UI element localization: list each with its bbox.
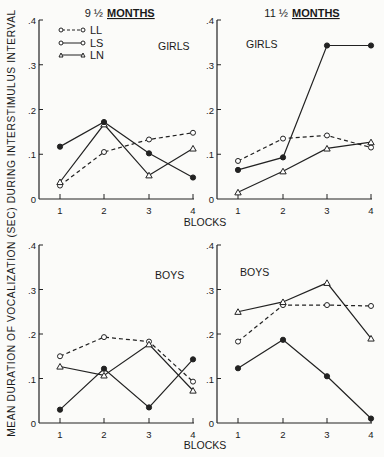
y-axis-label: MEAN DURATION OF VOCALIZATION (SEC) DURI… [6, 9, 17, 437]
y-tick-label: .3 [206, 285, 214, 296]
x-tick-label: 3 [324, 429, 329, 440]
data-point [102, 150, 107, 155]
data-point [57, 363, 63, 369]
series-ln [235, 280, 374, 341]
y-tick-label: .4 [206, 240, 214, 251]
legend: LL LS LN [59, 24, 104, 61]
data-point [146, 151, 151, 156]
chart-figure: MEAN DURATION OF VOCALIZATION (SEC) DURI… [0, 0, 384, 457]
panel-label: BOYS [240, 266, 269, 278]
data-point [280, 299, 286, 305]
data-point [102, 335, 107, 340]
series-ln [57, 121, 196, 184]
series-ln [235, 139, 374, 195]
y-tick-label: .2 [28, 329, 36, 340]
data-point [147, 137, 152, 142]
panel-11mo-girls: 0.1.2.3.41234GIRLS [206, 15, 374, 216]
panel-label: GIRLS [246, 38, 278, 50]
legend-item-ll: LL [59, 24, 102, 36]
y-tick-label: .1 [206, 149, 214, 160]
y-tick-label: .1 [206, 374, 214, 385]
x-tick-label: 4 [190, 205, 195, 216]
y-tick-label: .2 [206, 329, 214, 340]
svg-text:11 ½: 11 ½ [264, 7, 288, 19]
data-point [280, 155, 285, 160]
svg-text:MONTHS: MONTHS [292, 7, 340, 19]
data-point [236, 158, 241, 163]
data-point [191, 379, 196, 384]
panel-9mo-boys: 0.1.2.3.41234BOYS [28, 240, 196, 440]
svg-text:MONTHS: MONTHS [107, 7, 155, 19]
panel-9mo-girls: 0.1.2.3.41234GIRLS [28, 15, 196, 216]
series-ls [235, 337, 373, 421]
data-point [280, 337, 285, 342]
y-tick-label: 0 [209, 194, 214, 205]
y-tick-label: .3 [28, 285, 36, 296]
x-axis-label-top: BLOCKS [184, 216, 227, 228]
data-point [57, 407, 62, 412]
x-tick-label: 1 [235, 429, 240, 440]
series-ls [235, 43, 373, 173]
x-tick-label: 3 [146, 205, 151, 216]
y-tick-label: .2 [206, 105, 214, 116]
data-point [146, 405, 151, 410]
data-point [324, 374, 329, 379]
x-tick-label: 1 [57, 205, 62, 216]
y-tick-label: 0 [209, 418, 214, 429]
data-point [324, 280, 330, 286]
y-tick-label: .3 [28, 60, 36, 71]
x-tick-label: 4 [368, 205, 373, 216]
x-tick-label: 4 [368, 429, 373, 440]
x-tick-label: 3 [324, 205, 329, 216]
y-tick-label: .4 [206, 15, 214, 26]
legend-item-ls: LS [59, 37, 103, 49]
title-9-months: 9 ½ MONTHS [85, 7, 155, 19]
data-point [369, 145, 374, 150]
y-tick-label: 0 [31, 418, 36, 429]
data-point [235, 167, 240, 172]
x-tick-label: 2 [280, 429, 285, 440]
data-point [57, 144, 62, 149]
data-point [369, 303, 374, 308]
panel-label: GIRLS [158, 40, 190, 52]
title-11-months: 11 ½ MONTHS [264, 7, 339, 19]
data-point [325, 133, 330, 138]
panel-label: BOYS [155, 269, 184, 281]
data-point [235, 189, 241, 195]
data-point [280, 168, 286, 174]
data-point [190, 357, 195, 362]
svg-text:9 ½: 9 ½ [85, 7, 103, 19]
x-tick-label: 4 [190, 429, 195, 440]
y-tick-label: .4 [28, 15, 36, 26]
panel-11mo-boys: 0.1.2.3.41234BOYS [206, 240, 374, 440]
x-tick-label: 3 [146, 429, 151, 440]
x-axis-label-bottom: BLOCKS [184, 439, 227, 451]
series-ln [57, 341, 196, 393]
data-point [190, 145, 196, 151]
series-ll [236, 303, 374, 344]
svg-text:LS: LS [90, 37, 103, 49]
x-tick-label: 1 [57, 429, 62, 440]
y-tick-label: .4 [28, 240, 36, 251]
y-tick-label: .3 [206, 60, 214, 71]
data-point [235, 366, 240, 371]
data-point [324, 43, 329, 48]
data-point [325, 303, 330, 308]
y-tick-label: .1 [28, 149, 36, 160]
y-tick-label: 0 [31, 194, 36, 205]
svg-text:LN: LN [90, 49, 104, 61]
svg-text:LL: LL [90, 24, 102, 36]
series-ll [236, 133, 374, 164]
y-tick-label: .2 [28, 105, 36, 116]
y-tick-label: .1 [28, 374, 36, 385]
x-tick-label: 1 [235, 205, 240, 216]
data-point [281, 136, 286, 141]
data-point [101, 119, 106, 124]
data-point [368, 43, 373, 48]
legend-item-ln: LN [59, 49, 104, 61]
data-point [58, 354, 63, 359]
data-point [191, 130, 196, 135]
x-tick-label: 2 [280, 205, 285, 216]
data-point [236, 339, 241, 344]
x-tick-label: 2 [101, 429, 106, 440]
